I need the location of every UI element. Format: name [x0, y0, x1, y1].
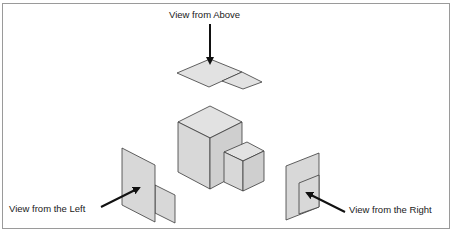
label-view-from-right: View from the Right — [349, 205, 432, 215]
right-view-projection — [286, 153, 319, 220]
left-view-projection — [122, 148, 175, 223]
isometric-views-diagram — [0, 0, 453, 233]
isometric-object — [178, 106, 264, 191]
label-view-from-above: View from Above — [169, 10, 240, 20]
label-view-from-left: View from the Left — [9, 204, 85, 214]
left-view-large-face — [122, 148, 155, 222]
left-view-small-face — [155, 185, 175, 223]
top-view-projection — [177, 59, 262, 89]
